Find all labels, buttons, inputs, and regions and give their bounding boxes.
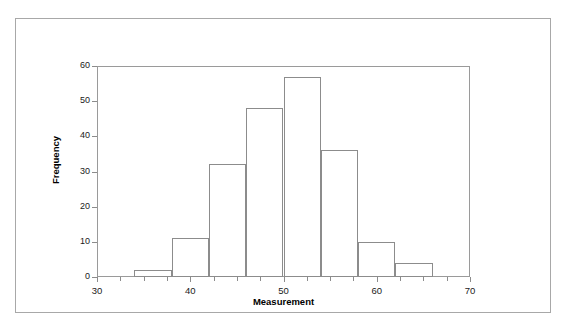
x-axis-tick-label: 50 xyxy=(264,285,304,296)
y-axis-tick-label: 20 xyxy=(58,202,90,211)
x-axis-tick xyxy=(97,277,98,282)
x-axis-minor-tick xyxy=(423,277,424,281)
histogram-bar xyxy=(172,238,209,277)
y-axis-tick-label: 30 xyxy=(58,167,90,176)
x-axis-tick xyxy=(190,277,191,282)
x-axis-minor-tick xyxy=(144,277,145,281)
histogram-bar xyxy=(246,108,283,277)
y-axis-tick-label-text: 20 xyxy=(60,202,90,211)
histogram-bar xyxy=(209,164,246,277)
x-axis-minor-tick xyxy=(260,277,261,281)
x-axis-minor-tick xyxy=(167,277,168,281)
y-axis-tick xyxy=(92,242,97,243)
histogram-figure: 0102030405060 3040506070 Frequency Measu… xyxy=(0,0,566,331)
y-axis-tick-label-text: 0 xyxy=(60,272,90,281)
y-axis-tick-label: 50 xyxy=(58,96,90,105)
histogram-bar xyxy=(358,242,395,277)
x-axis-tick xyxy=(470,277,471,282)
y-axis-tick-label-text: 30 xyxy=(60,167,90,176)
x-axis-minor-tick xyxy=(237,277,238,281)
y-axis-tick-label: 60 xyxy=(58,61,90,70)
y-axis-tick-label-text: 10 xyxy=(60,237,90,246)
x-axis-minor-tick xyxy=(447,277,448,281)
x-axis-tick-label: 40 xyxy=(170,285,210,296)
histogram-bar xyxy=(321,150,358,277)
x-axis-tick-label-text: 50 xyxy=(264,285,304,296)
x-axis-title: Measurement xyxy=(97,296,470,307)
x-axis-tick xyxy=(377,277,378,282)
x-axis-tick-label: 70 xyxy=(450,285,490,296)
x-axis-tick-label-text: 30 xyxy=(77,285,117,296)
histogram-bar xyxy=(284,77,321,277)
histogram-bars xyxy=(97,66,470,277)
x-axis-minor-tick xyxy=(214,277,215,281)
y-axis-tick-label: 40 xyxy=(58,131,90,140)
x-axis-tick-label: 60 xyxy=(357,285,397,296)
y-axis-tick-label: 0 xyxy=(58,272,90,281)
y-axis-tick xyxy=(92,207,97,208)
y-axis-tick-label-text: 40 xyxy=(60,131,90,140)
x-axis-tick-label-text: 70 xyxy=(450,285,490,296)
x-axis-tick-label-text: 40 xyxy=(170,285,210,296)
y-axis-tick xyxy=(92,66,97,67)
y-axis-tick-label-text: 50 xyxy=(60,96,90,105)
y-axis-tick-label: 10 xyxy=(58,237,90,246)
x-axis-minor-tick xyxy=(330,277,331,281)
x-axis-minor-tick xyxy=(353,277,354,281)
histogram-bar xyxy=(134,270,171,277)
x-axis-minor-tick xyxy=(307,277,308,281)
y-axis-title: Frequency xyxy=(50,120,62,200)
x-axis-minor-tick xyxy=(120,277,121,281)
x-axis-tick-label: 30 xyxy=(77,285,117,296)
x-axis-tick xyxy=(284,277,285,282)
y-axis-tick xyxy=(92,172,97,173)
x-axis-tick-label-text: 60 xyxy=(357,285,397,296)
y-axis-tick xyxy=(92,101,97,102)
histogram-bar xyxy=(395,263,432,277)
y-axis-tick xyxy=(92,136,97,137)
y-axis-tick-label-text: 60 xyxy=(60,61,90,70)
x-axis-minor-tick xyxy=(400,277,401,281)
